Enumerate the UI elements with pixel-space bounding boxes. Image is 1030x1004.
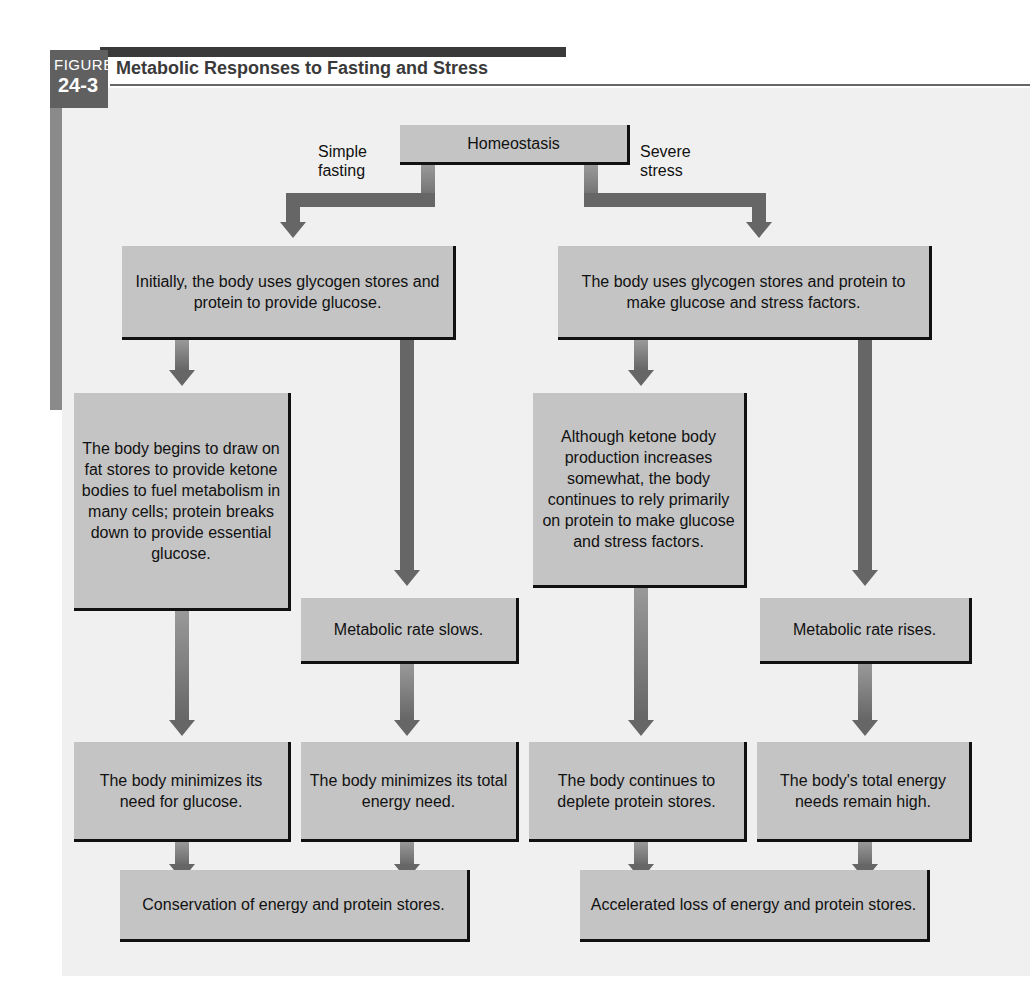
homeostasis-text: Homeostasis bbox=[467, 133, 559, 154]
stress-initial-box: The body uses glycogen stores and protei… bbox=[558, 246, 932, 340]
stress-ketone-box: Although ketone body production increase… bbox=[533, 393, 747, 588]
stress-energy-high-box: The body's total energy needs remain hig… bbox=[757, 742, 972, 842]
arrow-down-icon bbox=[280, 222, 306, 238]
connector-right-horizontal bbox=[584, 193, 766, 207]
fasting-outcome-box: Conservation of energy and protein store… bbox=[120, 870, 470, 942]
severe-stress-label: Severestress bbox=[640, 142, 691, 180]
arrow-down-icon bbox=[169, 720, 195, 736]
arrow-shaft bbox=[400, 664, 414, 720]
arrow-shaft bbox=[400, 340, 414, 572]
arrow-shaft bbox=[634, 340, 648, 370]
stress-metabolic-rate-box: Metabolic rate rises. bbox=[760, 598, 972, 664]
arrow-shaft bbox=[175, 842, 189, 866]
figure-title: Metabolic Responses to Fasting and Stres… bbox=[116, 58, 488, 79]
title-rule bbox=[110, 84, 1030, 86]
figure-tag: FIGURE 24-3 bbox=[50, 50, 108, 108]
fasting-fat-stores-box: The body begins to draw on fat stores to… bbox=[74, 393, 291, 611]
fasting-minimize-energy-box: The body minimizes its total energy need… bbox=[301, 742, 519, 842]
connector-left-horizontal bbox=[286, 193, 435, 207]
connector-right-down bbox=[752, 193, 766, 223]
fasting-initial-box: Initially, the body uses glycogen stores… bbox=[122, 246, 456, 340]
side-accent-bar bbox=[50, 108, 62, 410]
arrow-down-icon bbox=[628, 720, 654, 736]
arrow-shaft bbox=[858, 340, 872, 572]
arrow-down-icon bbox=[746, 222, 772, 238]
stress-outcome-box: Accelerated loss of energy and protein s… bbox=[580, 870, 930, 942]
arrow-down-icon bbox=[169, 370, 195, 386]
arrow-down-icon bbox=[628, 370, 654, 386]
header-bar bbox=[100, 47, 566, 57]
simple-fasting-label: Simplefasting bbox=[318, 142, 367, 180]
homeostasis-box: Homeostasis bbox=[400, 125, 630, 165]
fasting-minimize-glucose-box: The body minimizes its need for glucose. bbox=[74, 742, 291, 842]
arrow-down-icon bbox=[852, 570, 878, 586]
connector-left-down bbox=[286, 193, 300, 223]
arrow-shaft bbox=[634, 588, 648, 720]
arrow-shaft bbox=[634, 842, 648, 866]
fasting-metabolic-rate-box: Metabolic rate slows. bbox=[301, 598, 519, 664]
figure-label: FIGURE bbox=[54, 56, 114, 73]
stress-deplete-protein-box: The body continues to deplete protein st… bbox=[529, 742, 747, 842]
arrow-down-icon bbox=[394, 570, 420, 586]
arrow-down-icon bbox=[852, 720, 878, 736]
figure-number: 24-3 bbox=[58, 74, 98, 97]
arrow-shaft bbox=[175, 340, 189, 370]
arrow-shaft bbox=[858, 842, 872, 866]
arrow-shaft bbox=[175, 611, 189, 721]
arrow-shaft bbox=[400, 842, 414, 866]
arrow-shaft bbox=[858, 664, 872, 720]
arrow-down-icon bbox=[394, 720, 420, 736]
